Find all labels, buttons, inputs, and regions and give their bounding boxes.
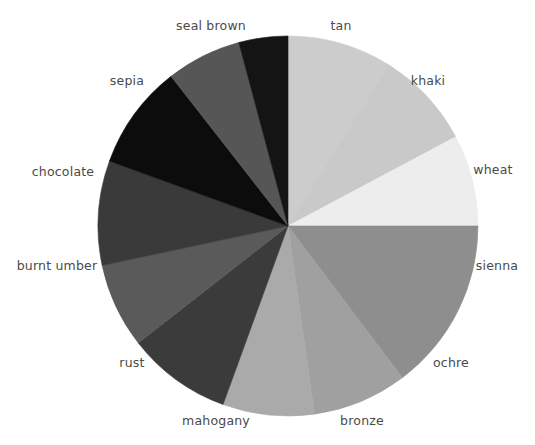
pie-chart: tankhakiwheatsiennaochrebronzemahoganyru… <box>0 0 535 445</box>
pie-label-mahogany: mahogany <box>182 415 250 428</box>
pie-label-sienna: sienna <box>476 260 518 273</box>
pie-label-khaki: khaki <box>411 75 446 88</box>
pie-label-wheat: wheat <box>473 164 512 177</box>
pie-label-bronze: bronze <box>340 415 384 428</box>
pie-label-seal-brown: seal brown <box>176 20 246 33</box>
pie-label-tan: tan <box>330 20 351 33</box>
pie-slices-group <box>98 36 478 416</box>
pie-label-sepia: sepia <box>110 75 144 88</box>
pie-label-ochre: ochre <box>433 357 469 370</box>
pie-chart-svg <box>0 0 535 445</box>
pie-label-chocolate: chocolate <box>32 166 95 179</box>
pie-label-burnt-umber: burnt umber <box>17 260 98 273</box>
pie-label-rust: rust <box>119 357 144 370</box>
